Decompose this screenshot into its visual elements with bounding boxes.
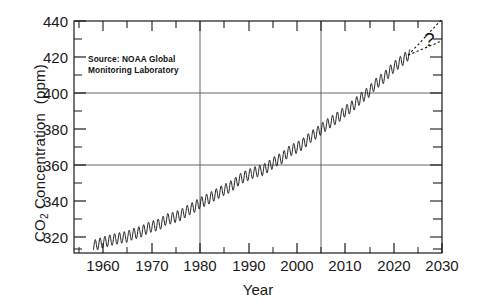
question-mark-annotation: ? (424, 29, 435, 51)
xtick-label-2020: 2020 (369, 257, 419, 274)
xtick-label-1970: 1970 (127, 257, 177, 274)
ytick-label-420: 420 (24, 49, 68, 66)
source-note: Source: NOAA Global Monitoring Laborator… (88, 54, 179, 76)
xtick-label-1980: 1980 (175, 257, 225, 274)
ytick-label-340: 340 (24, 193, 68, 210)
ytick-label-320: 320 (24, 229, 68, 246)
ytick-label-380: 380 (24, 121, 68, 138)
ytick-label-440: 440 (24, 13, 68, 30)
y-axis-label: CO2 Concentration (ppm) (26, 0, 52, 306)
ytick-label-360: 360 (24, 157, 68, 174)
xtick-label-1960: 1960 (78, 257, 128, 274)
xtick-label-2010: 2010 (320, 257, 370, 274)
x-axis-label: Year (74, 281, 442, 298)
xtick-label-2030: 2030 (417, 257, 467, 274)
xtick-label-1990: 1990 (224, 257, 274, 274)
ytick-label-400: 400 (24, 85, 68, 102)
xtick-label-2000: 2000 (272, 257, 322, 274)
